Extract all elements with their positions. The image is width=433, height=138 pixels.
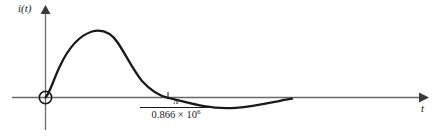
tick-label-denominator: 0.866 × 106 [140,108,212,121]
y-axis-label: i(t) [18,3,31,14]
current-waveform-figure: i(t) t π 0.866 × 106 [0,0,433,138]
tick-label-numerator: π [140,96,212,107]
x-axis-arrow-icon [419,93,429,103]
plot-area [0,0,433,138]
y-axis-arrow-icon [41,5,51,14]
tick-label-denominator-base: 0.866 × 10 [152,109,197,120]
tick-label-denominator-exponent: 6 [197,108,201,116]
x-axis-label: t [421,103,424,114]
zero-crossing-tick-label: π 0.866 × 106 [140,96,212,121]
